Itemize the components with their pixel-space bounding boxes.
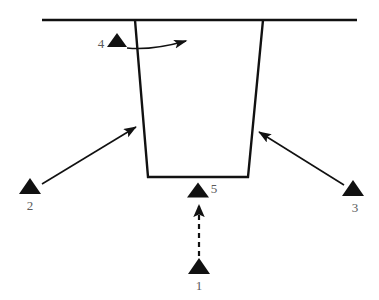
- marker-group: 12345: [19, 33, 364, 293]
- marker-label-3: 3: [352, 200, 359, 215]
- marker-label-5: 5: [211, 181, 218, 196]
- trench-outline-group: [135, 20, 263, 177]
- arrow-group: [42, 41, 344, 256]
- triangle-marker-icon: [188, 258, 210, 274]
- trench-outline: [135, 20, 263, 177]
- marker-triangle-3[interactable]: 3: [342, 180, 364, 215]
- marker-label-1: 1: [196, 278, 203, 293]
- trench-cross-section-diagram: 12345: [0, 0, 379, 300]
- triangle-marker-icon: [19, 178, 41, 194]
- marker-triangle-2[interactable]: 2: [19, 178, 41, 213]
- triangle-marker-icon: [107, 33, 127, 47]
- marker-triangle-4[interactable]: 4: [98, 33, 127, 51]
- marker-triangle-1[interactable]: 1: [188, 258, 210, 293]
- triangle-marker-icon: [342, 180, 364, 196]
- pointer-arrow-from-2: [42, 127, 136, 184]
- marker-triangle-5[interactable]: 5: [187, 181, 217, 198]
- marker-label-2: 2: [27, 198, 34, 213]
- triangle-marker-icon: [187, 183, 209, 198]
- marker-label-4: 4: [98, 36, 105, 51]
- diagram-canvas: 12345: [0, 0, 379, 300]
- pointer-arrow-from-3: [259, 132, 344, 185]
